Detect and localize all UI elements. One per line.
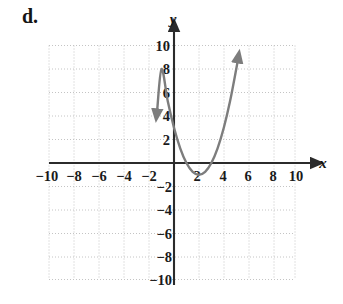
- y-axis-label: y: [168, 11, 177, 27]
- axes: [49, 30, 312, 285]
- y-tick-label: 2: [163, 132, 170, 148]
- y-tick-label: −8: [156, 249, 172, 265]
- figure-panel: d.: [0, 0, 343, 304]
- x-tick-label: 8: [269, 168, 276, 184]
- x-tick-label: 2: [193, 168, 200, 184]
- x-tick-label: −10: [36, 168, 59, 184]
- y-tick-label: −10: [149, 272, 172, 288]
- x-tick-label: 10: [289, 168, 304, 184]
- y-tick-label: −6: [156, 226, 172, 242]
- x-tick-label: −4: [116, 168, 132, 184]
- x-tick-label: −6: [91, 168, 107, 184]
- y-tick-label: 10: [156, 38, 171, 54]
- x-tick-label: −8: [66, 168, 82, 184]
- x-tick-label: 4: [219, 168, 226, 184]
- x-axis-label: x: [318, 155, 327, 171]
- y-tick-label: −2: [156, 179, 172, 195]
- x-tick-label: 6: [244, 168, 251, 184]
- coordinate-plane: x y −10 −8 −6 −4 −2 2 4 6 8 10 10 8 6 4 …: [0, 0, 343, 304]
- y-tick-label: −4: [156, 202, 172, 218]
- x-tick-label: −2: [141, 168, 157, 184]
